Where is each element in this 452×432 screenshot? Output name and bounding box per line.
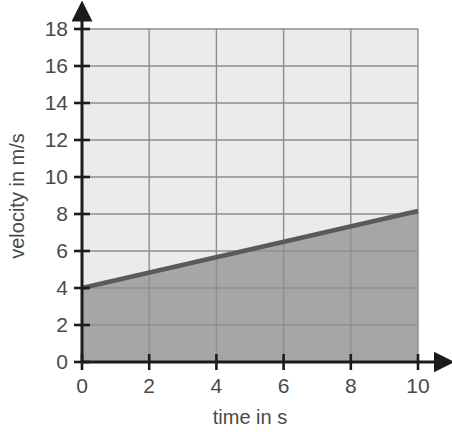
velocity-time-chart: 0 2 4 6 8 10 12 14 16 18 0 2 4 6 8 10 ti…	[0, 0, 452, 432]
y-tick-label-2: 2	[56, 313, 68, 336]
x-tick-label-6: 6	[278, 374, 290, 397]
y-tick-label-10: 10	[45, 165, 68, 188]
x-tick-label-8: 8	[345, 374, 357, 397]
y-tick-label-16: 16	[45, 54, 68, 77]
x-tick-labels: 0 2 4 6 8 10	[76, 374, 430, 397]
y-tick-label-4: 4	[56, 276, 68, 299]
y-tick-label-8: 8	[56, 202, 68, 225]
chart-canvas: 0 2 4 6 8 10 12 14 16 18 0 2 4 6 8 10 ti…	[0, 0, 452, 432]
y-tick-label-0: 0	[56, 350, 68, 373]
y-tick-label-12: 12	[45, 128, 68, 151]
y-tick-label-14: 14	[45, 91, 69, 114]
x-axis-title: time in s	[213, 406, 287, 428]
y-tick-labels: 0 2 4 6 8 10 12 14 16 18	[45, 17, 69, 373]
x-tick-label-0: 0	[76, 374, 88, 397]
y-tick-label-6: 6	[56, 239, 68, 262]
x-tick-label-4: 4	[211, 374, 223, 397]
y-axis-title: velocity in m/s	[6, 133, 28, 259]
x-tick-label-2: 2	[143, 374, 155, 397]
x-tick-label-10: 10	[406, 374, 429, 397]
y-tick-label-18: 18	[45, 17, 68, 40]
